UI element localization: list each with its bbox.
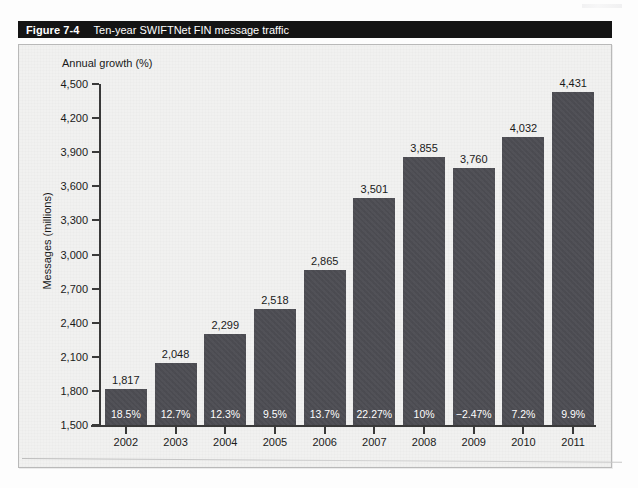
y-axis-tick [92,151,99,153]
x-axis-tick-label: 2009 [462,436,486,448]
x-axis-line [91,425,596,427]
x-axis-tick-label: 2011 [561,436,585,448]
x-axis-tick [125,427,127,434]
bar-growth-label: 18.5% [111,408,141,420]
x-axis-tick-label: 2002 [114,436,138,448]
bar: 3,50122.27% [353,198,395,425]
x-axis-tick [224,427,226,434]
y-axis-tick [92,117,99,119]
y-axis-tick [92,219,99,221]
y-axis-tick-label: 3,600 [60,180,88,192]
bar-growth-label: −2.47% [456,408,492,420]
bar-growth-label: 22.27% [357,408,393,420]
y-axis-tick [92,356,99,358]
bar-growth-label: 12.7% [161,408,191,420]
figure-caption-bar: Figure 7-4 Ten-year SWIFTNet FIN message… [18,21,612,38]
bar-texture [353,198,395,425]
bar-value-label: 2,518 [261,294,289,306]
bar-texture [453,168,495,425]
y-axis-tick-label: 1,500 [60,419,88,431]
x-axis-tick [572,427,574,434]
bar-value-label: 3,501 [361,183,389,195]
bar: 2,29912.3% [204,334,246,425]
bar-value-label: 4,431 [559,77,587,89]
y-axis-tick [92,288,99,290]
bar: 4,0327.2% [502,137,544,425]
y-axis-tick [92,185,99,187]
figure-number: Figure 7-4 [26,24,80,36]
y-axis-tick [92,390,99,392]
bar: 3,85510% [403,157,445,425]
bar-growth-label: 9.9% [561,408,585,420]
bar: 1,81718.5% [105,389,147,425]
bar-texture [304,270,346,425]
x-axis-tick [423,427,425,434]
x-axis-tick [522,427,524,434]
bar-value-label: 3,855 [410,142,438,154]
secondary-axis-label: Annual growth (%) [62,57,153,69]
bar-value-label: 2,048 [162,348,190,360]
x-axis-tick [324,427,326,434]
bar-growth-label: 10% [414,408,435,420]
bar: 4,4319.9% [552,92,594,425]
y-axis-tick-label: 3,000 [60,249,88,261]
bar-value-label: 2,299 [211,319,239,331]
x-axis-tick-label: 2004 [213,436,237,448]
y-axis-tick [92,424,99,426]
scan-artifact [582,4,622,8]
x-axis-tick [274,427,276,434]
y-axis-tick [92,254,99,256]
bar-growth-label: 12.3% [210,408,240,420]
x-axis-tick [373,427,375,434]
x-axis-tick-label: 2003 [163,436,187,448]
bar-texture [403,157,445,425]
x-axis-tick-label: 2005 [263,436,287,448]
y-axis-tick-label: 3,900 [60,146,88,158]
bar-value-label: 1,817 [112,374,140,386]
scanned-page: Figure 7-4 Ten-year SWIFTNet FIN message… [0,0,638,488]
bar-growth-label: 13.7% [310,408,340,420]
y-axis-tick-label: 2,400 [60,317,88,329]
figure-caption-text: Ten-year SWIFTNet FIN message traffic [94,24,289,36]
bar-growth-label: 9.5% [263,408,287,420]
y-axis-tick-label: 2,100 [60,351,88,363]
bar-value-label: 4,032 [510,122,538,134]
plot-area: 1,5001,8002,1002,4002,7003,0003,3003,600… [99,84,596,425]
bar-value-label: 3,760 [460,153,488,165]
y-axis-tick-label: 2,700 [60,283,88,295]
x-axis-tick [473,427,475,434]
bar: 3,760−2.47% [453,168,495,425]
y-axis-tick-label: 3,300 [60,214,88,226]
y-axis-tick-label: 4,200 [60,112,88,124]
x-axis-tick-label: 2006 [312,436,336,448]
x-axis-tick-label: 2008 [412,436,436,448]
bar: 2,5189.5% [254,309,296,425]
x-axis-tick [175,427,177,434]
y-axis-tick-label: 4,500 [60,78,88,90]
y-axis-title: Messages (millions) [41,166,53,316]
x-axis-tick-label: 2010 [511,436,535,448]
y-axis-tick [92,83,99,85]
bar-value-label: 2,865 [311,255,339,267]
bar-growth-label: 7.2% [511,408,535,420]
x-axis-tick-label: 2007 [362,436,386,448]
y-axis-tick [92,322,99,324]
y-axis-tick-label: 1,800 [60,385,88,397]
bar: 2,86513.7% [304,270,346,425]
chart-figure: Annual growth (%) Messages (millions) 1,… [18,44,612,468]
bar: 2,04812.7% [155,363,197,425]
y-axis-line [99,84,101,425]
bar-texture [552,92,594,425]
bar-texture [502,137,544,425]
